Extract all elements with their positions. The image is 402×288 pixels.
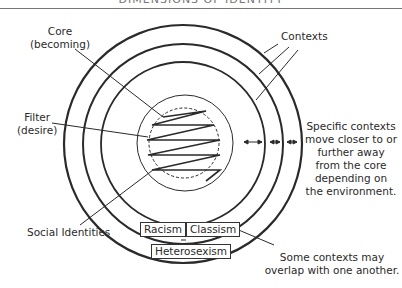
context-box-classism: Classism [186,222,240,237]
note-line: depending on [300,172,402,185]
social-identities-leader [80,170,153,225]
filter-label: Filter (desire) [17,111,57,137]
core-label-line: Core [30,25,90,38]
core-leader [75,49,163,117]
note-line: from the core [300,159,402,172]
context-box-heterosexism: Heterosexism [151,244,231,259]
distance-arrows [244,140,297,144]
contexts-label: Contexts [281,30,328,43]
note-line: the environment. [300,185,402,198]
social-identities-label: Social Identities [27,226,110,239]
filter-zigzag [147,111,220,181]
overlap-note: Some contexts may overlap with one anoth… [262,251,402,277]
context-ring-middle [83,44,283,244]
context-box-racism: Racism [140,222,186,237]
note-line: move closer to or [300,133,402,146]
core-label-line: (becoming) [30,38,90,51]
core-label: Core (becoming) [30,25,90,51]
filter-label-line: Filter [17,111,57,124]
note-line: further away [300,146,402,159]
specific-contexts-note: Specific contexts move closer to or furt… [300,120,402,198]
note-line: overlap with one another. [262,264,402,277]
filter-leader [52,123,148,137]
note-line: Specific contexts [300,120,402,133]
note-line: Some contexts may [262,251,402,264]
contexts-leader-1 [264,44,278,53]
context-ring-inner [101,62,265,226]
contexts-leader-2 [259,47,289,74]
filter-label-line: (desire) [17,124,57,137]
